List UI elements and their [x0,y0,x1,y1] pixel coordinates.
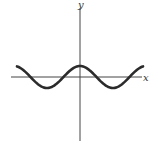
y-axis-label: y [77,0,84,10]
x-axis-label: x [143,72,149,83]
cosine-plot: y x [0,0,158,147]
